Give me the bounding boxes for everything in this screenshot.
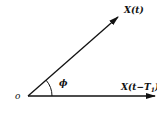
angle-label: ϕ xyxy=(59,78,68,88)
vector-label-x-t: X(t) xyxy=(123,5,144,15)
origin-label: o xyxy=(15,91,21,101)
vector-x-t xyxy=(28,17,118,96)
phasor-diagram: o ϕ X(t) X(t−T1) xyxy=(0,0,157,114)
vector-label-x-t-minus-t: X(t−T1) xyxy=(120,82,157,93)
angle-arc xyxy=(46,80,52,96)
